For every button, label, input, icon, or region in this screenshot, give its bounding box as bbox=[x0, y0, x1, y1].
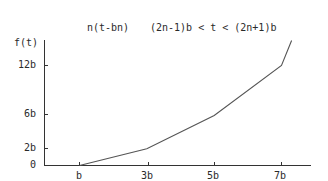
series-line-f bbox=[80, 41, 292, 166]
x-tick-label-7b: 7b bbox=[274, 171, 286, 181]
y-axis-label: f(t) bbox=[14, 38, 38, 48]
x-tick-label-3b: 3b bbox=[141, 171, 153, 181]
chart: n(t-bn) (2n-1)b < t < (2n+1)b f(t) 12b 6… bbox=[0, 0, 328, 181]
y-tick-label-0: 0 bbox=[30, 160, 36, 170]
y-tick-label-2b: 2b bbox=[24, 143, 36, 153]
chart-title-function: n(t-bn) bbox=[87, 22, 129, 34]
y-tick-label-6b: 6b bbox=[24, 109, 36, 119]
y-tick-label-12b: 12b bbox=[18, 60, 36, 70]
x-tick-label-b: b bbox=[76, 171, 82, 181]
chart-title-domain: (2n-1)b < t < (2n+1)b bbox=[150, 22, 276, 34]
x-tick-label-5b: 5b bbox=[207, 171, 219, 181]
